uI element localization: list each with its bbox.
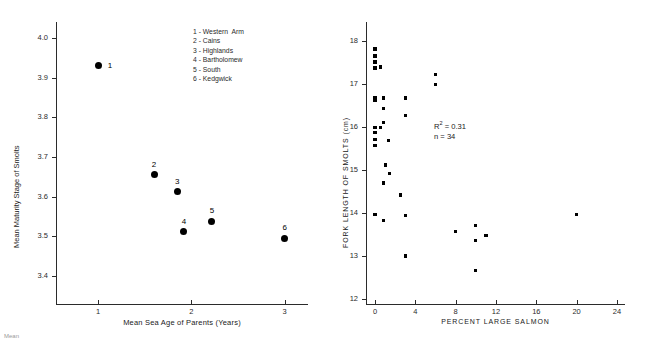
- x-tick: [191, 300, 192, 304]
- data-point: [484, 234, 487, 237]
- y-tick: [52, 78, 56, 79]
- x-tick-label: 2: [179, 308, 203, 316]
- y-tick-label: 18: [336, 37, 358, 45]
- y-tick: [52, 197, 56, 198]
- data-point: [382, 107, 385, 110]
- x-tick: [496, 300, 497, 304]
- data-point: [575, 213, 578, 216]
- legend-item: 1 - Western Arm: [193, 27, 244, 36]
- data-point: [373, 60, 376, 63]
- plot-area-left: 3.43.53.63.73.83.94.0123123456: [56, 22, 308, 304]
- data-point-label: 2: [152, 160, 156, 169]
- y-tick-label: 3.8: [26, 113, 48, 121]
- data-point: [474, 224, 477, 227]
- x-tick-label: 3: [273, 308, 297, 316]
- data-point: [382, 219, 385, 222]
- data-point: [95, 62, 102, 69]
- statistics-annotation: R2 = 0.31 n = 34: [434, 118, 466, 142]
- y-tick-label: 3.6: [26, 193, 48, 201]
- figure-caption-fragment: Mean: [4, 333, 19, 339]
- data-point: [404, 254, 407, 257]
- x-axis-title-right: PERCENT LARGE SALMON: [366, 318, 625, 325]
- x-tick: [375, 300, 376, 304]
- data-point: [281, 235, 288, 242]
- data-point-label: 4: [182, 217, 186, 226]
- data-point: [180, 228, 187, 235]
- x-tick: [456, 300, 457, 304]
- y-tick: [52, 236, 56, 237]
- x-tick-label: 20: [565, 308, 589, 316]
- sample-size-line: n = 34: [434, 132, 466, 142]
- data-point-label: 3: [175, 177, 179, 186]
- data-point: [373, 144, 376, 147]
- data-point: [384, 163, 387, 166]
- x-axis-title-left: Mean Sea Age of Parents (Years): [56, 318, 308, 327]
- y-tick-label: 3.9: [26, 74, 48, 82]
- x-tick-label: 12: [484, 308, 508, 316]
- y-tick: [362, 84, 366, 85]
- data-point: [373, 213, 376, 216]
- x-tick-label: 8: [444, 308, 468, 316]
- legend-item: 2 - Cains: [193, 36, 244, 45]
- y-axis-title-right: FORK LENGTH OF SMOLTS (cm): [342, 117, 349, 248]
- chart-panel-left: 3.43.53.63.73.83.94.0123123456 1 - Weste…: [0, 0, 330, 345]
- legend-item: 3 - Highlands: [193, 46, 244, 55]
- data-point-label: 5: [210, 206, 214, 215]
- legend-left: 1 - Western Arm2 - Cains3 - Highlands4 -…: [193, 27, 244, 83]
- x-tick: [617, 300, 618, 304]
- data-point-label: 6: [282, 223, 286, 232]
- y-tick: [362, 127, 366, 128]
- x-tick-label: 24: [605, 308, 629, 316]
- y-tick: [52, 276, 56, 277]
- y-tick: [362, 299, 366, 300]
- r-squared-value: = 0.31: [445, 122, 466, 131]
- data-point: [382, 121, 385, 124]
- data-point: [373, 126, 376, 129]
- x-tick: [577, 300, 578, 304]
- data-point: [379, 126, 382, 129]
- y-axis-line: [366, 22, 367, 304]
- plot-area-right: 1213141516171804812162024: [366, 22, 625, 304]
- data-point: [474, 239, 477, 242]
- data-point: [474, 269, 477, 272]
- y-tick-label: 17: [336, 80, 358, 88]
- data-point: [379, 65, 382, 68]
- y-tick: [362, 41, 366, 42]
- y-tick: [362, 213, 366, 214]
- data-point: [373, 66, 376, 69]
- data-point: [387, 139, 390, 142]
- data-point: [454, 230, 457, 233]
- legend-item: 5 - South: [193, 65, 244, 74]
- y-tick: [52, 117, 56, 118]
- data-point: [151, 171, 158, 178]
- x-tick: [536, 300, 537, 304]
- data-point: [404, 214, 407, 217]
- data-point: [434, 83, 437, 86]
- y-tick-label: 12: [336, 295, 358, 303]
- x-tick: [415, 300, 416, 304]
- data-point: [382, 181, 385, 184]
- x-tick-label: 1: [86, 308, 110, 316]
- y-tick-label: 3.5: [26, 232, 48, 240]
- y-tick-label: 13: [336, 252, 358, 260]
- data-point: [208, 218, 215, 225]
- y-axis-line: [56, 22, 57, 304]
- legend-item: 4 - Bartholomew: [193, 55, 244, 64]
- r-squared-exponent: 2: [439, 120, 442, 126]
- data-point: [382, 96, 385, 99]
- y-tick-label: 4.0: [26, 34, 48, 42]
- x-axis-line: [366, 304, 625, 305]
- data-point: [174, 188, 181, 195]
- y-tick: [52, 38, 56, 39]
- legend-item: 6 - Kedgwick: [193, 74, 244, 83]
- chart-panel-right: 1213141516171804812162024 R2 = 0.31 n = …: [330, 0, 649, 345]
- data-point: [404, 114, 407, 117]
- data-point-label: 1: [108, 61, 112, 70]
- data-point: [434, 73, 437, 76]
- x-tick: [98, 300, 99, 304]
- y-tick: [362, 256, 366, 257]
- y-tick-label: 3.7: [26, 153, 48, 161]
- x-tick-label: 4: [403, 308, 427, 316]
- data-point: [404, 96, 407, 99]
- y-tick: [362, 170, 366, 171]
